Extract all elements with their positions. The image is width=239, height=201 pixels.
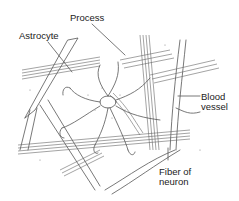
- label-blood-vessel-line2: vessel: [201, 102, 228, 112]
- cytoplasm-dots: [29, 44, 200, 160]
- astrocyte-cell: [60, 62, 160, 155]
- label-astrocyte: Astrocyte: [19, 31, 59, 41]
- label-fiber-line2: neuron: [159, 177, 189, 187]
- fiber-bundles: [18, 35, 219, 176]
- label-process: Process: [70, 13, 104, 23]
